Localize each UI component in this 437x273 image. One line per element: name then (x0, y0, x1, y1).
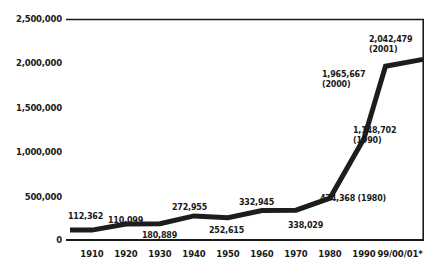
y-tick-500000: 500,000 (0, 192, 62, 202)
x-tick-1930: 1930 (142, 249, 178, 259)
data-label-2042479: 2,042,479 (2001) (369, 35, 412, 54)
x-tick-1950: 1950 (210, 249, 246, 259)
data-label-1148702: 1,148,702 (1990) (353, 126, 396, 145)
data-label-112362: 112,362 (68, 212, 103, 222)
x-tick-1960: 1960 (244, 249, 280, 259)
x-tick-1940: 1940 (176, 249, 212, 259)
x-tick-1910: 1910 (74, 249, 110, 259)
line-chart: 2,500,000 2,000,000 1,500,000 1,000,000 … (0, 0, 437, 273)
data-label-1965667-year: (2000) (322, 80, 350, 89)
x-tick-990001: 99/00/01* (370, 249, 430, 259)
y-tick-2500000: 2,500,000 (0, 14, 62, 24)
data-label-272955: 272,955 (172, 203, 207, 213)
data-label-2042479-year: (2001) (369, 45, 397, 54)
y-tick-1000000: 1,000,000 (0, 147, 62, 157)
data-label-1148702-year: (1990) (353, 136, 381, 145)
data-label-338029: 338,029 (288, 221, 323, 231)
y-tick-2000000: 2,000,000 (0, 58, 62, 68)
x-tick-1970: 1970 (278, 249, 314, 259)
data-label-1148702-value: 1,148,702 (353, 126, 396, 135)
x-tick-1920: 1920 (108, 249, 144, 259)
y-tick-1500000: 1,500,000 (0, 103, 62, 113)
data-label-180889: 180,889 (142, 231, 177, 241)
data-label-1965667-value: 1,965,667 (322, 70, 365, 79)
y-tick-0: 0 (0, 235, 62, 245)
data-label-110099: 110,099 (108, 216, 143, 226)
data-label-2042479-value: 2,042,479 (369, 35, 412, 44)
x-tick-1980: 1980 (312, 249, 348, 259)
data-label-474368: 474,368 (1980) (320, 194, 386, 204)
data-label-252615: 252,615 (209, 226, 244, 236)
data-label-332945: 332,945 (239, 198, 274, 208)
data-label-1965667: 1,965,667 (2000) (322, 70, 365, 89)
